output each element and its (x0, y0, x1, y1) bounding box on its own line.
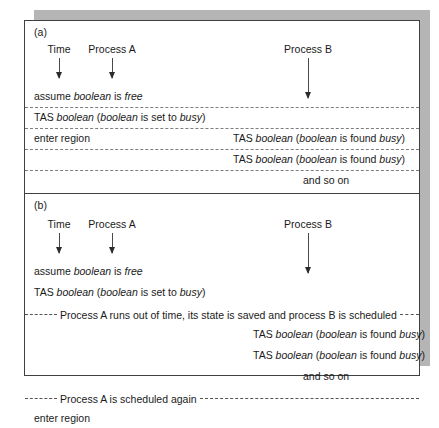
panel-a-row-1-left: TAS boolean (boolean is set to busy) (34, 111, 205, 123)
table-row: TAS boolean (boolean is found busy) (25, 325, 419, 346)
panel-b-row-1-left: TAS boolean (boolean is set to busy) (34, 286, 205, 298)
table-row: assume boolean is free (25, 262, 419, 283)
panel-b-column-label-process-b: Process B (284, 218, 332, 230)
dash-segment-left (25, 398, 57, 399)
table-row: TAS boolean (boolean is set to busy) (25, 108, 419, 129)
panel-a-column-label-process-b: Process B (284, 43, 332, 55)
panel-a-row-2-right: TAS boolean (boolean is found busy) (233, 132, 405, 144)
table-row: assume boolean is free (25, 87, 419, 108)
panel-a-column-label-time: Time (48, 43, 71, 55)
dash-segment-right (200, 398, 419, 399)
panel-b-final-row: enter region (34, 412, 90, 424)
table-row: TAS boolean (boolean is found busy) (25, 346, 419, 367)
figure-frame: (a) Time Process A Process B assume bool… (24, 20, 420, 376)
panel-a-label: (a) (34, 26, 47, 38)
dash-segment-left (25, 314, 57, 315)
panel-b-preempt-annotation: Process A runs out of time, its state is… (25, 304, 419, 325)
panel-b-row-0-left: assume boolean is free (34, 265, 143, 277)
panel-b-reschedule-annotation: Process A is scheduled again (25, 388, 419, 409)
panel-b-column-label-process-a: Process A (88, 218, 135, 230)
table-row: TAS boolean (boolean is set to busy) (25, 283, 419, 304)
table-row: and so on (25, 171, 419, 192)
panel-b-column-label-time: Time (48, 218, 71, 230)
panel-b-label: (b) (34, 199, 47, 211)
panel-a-row-4-right: and so on (303, 174, 349, 186)
panel-a-row-0-left: assume boolean is free (34, 90, 143, 102)
panel-a-row-3-right: TAS boolean (boolean is found busy) (233, 153, 405, 165)
panel-a-row-2-left: enter region (34, 132, 90, 144)
panel-b-rows: assume boolean is free TAS boolean (bool… (25, 262, 419, 428)
panel-b-process-a-arrow-icon (112, 233, 113, 253)
panel-b-procb-row-0: TAS boolean (boolean is found busy) (253, 328, 425, 340)
panel-b-procb-row-1: TAS boolean (boolean is found busy) (253, 349, 425, 361)
panel-b-time-arrow-icon (59, 233, 60, 253)
panel-a: (a) Time Process A Process B assume bool… (25, 21, 419, 194)
panel-b: (b) Time Process A Process B assume bool… (25, 194, 419, 374)
table-row: enter region (25, 409, 419, 428)
table-row: TAS boolean (boolean is found busy) (25, 150, 419, 171)
panel-b-preempt-note-text: Process A runs out of time, its state is… (57, 309, 400, 321)
dash-segment-right (400, 314, 419, 315)
table-row: and so on (25, 367, 419, 388)
panel-b-reschedule-note-text: Process A is scheduled again (57, 393, 200, 405)
panel-a-time-arrow-icon (59, 58, 60, 78)
panel-a-rows: assume boolean is free TAS boolean (bool… (25, 87, 419, 192)
panel-a-process-a-arrow-icon (112, 58, 113, 78)
table-row: enter region TAS boolean (boolean is fou… (25, 129, 419, 150)
panel-a-column-label-process-a: Process A (88, 43, 135, 55)
panel-b-procb-row-2: and so on (303, 370, 349, 382)
